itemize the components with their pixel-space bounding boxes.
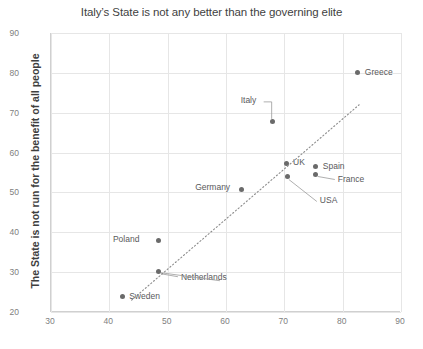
bottom-cropped-text (60, 340, 390, 348)
data-point-label: Spain (323, 161, 345, 171)
x-tick-label: 70 (268, 316, 298, 326)
y-tick-label: 20 (0, 307, 19, 317)
y-axis-title: The State is not run for the benefit of … (29, 31, 41, 311)
plot-area: GreeceItalyUKSpainFranceUSAGermanyPoland… (50, 33, 400, 312)
scatter-chart: Italy’s State is not any better than the… (0, 0, 423, 349)
gridline-vertical (109, 33, 110, 312)
y-tick-label: 40 (0, 227, 19, 237)
gridline-vertical (401, 33, 402, 312)
chart-title: Italy’s State is not any better than the… (0, 6, 423, 18)
y-tick-label: 30 (0, 267, 19, 277)
data-point[interactable] (120, 294, 125, 299)
x-tick-label: 30 (35, 316, 65, 326)
gridline-vertical (343, 33, 344, 312)
data-point[interactable] (313, 164, 318, 169)
data-point-label: Italy (241, 95, 257, 105)
y-tick-label: 90 (0, 28, 19, 38)
y-tick-label: 80 (0, 68, 19, 78)
data-point-label: Germany (195, 182, 230, 192)
x-tick-label: 60 (210, 316, 240, 326)
data-point-label: USA (320, 195, 337, 205)
data-point[interactable] (313, 172, 318, 177)
y-tick-label: 50 (0, 187, 19, 197)
x-tick-label: 80 (327, 316, 357, 326)
data-point[interactable] (156, 269, 161, 274)
gridline-horizontal (51, 312, 401, 313)
data-point-label: Greece (365, 67, 393, 77)
data-point[interactable] (239, 187, 244, 192)
data-point[interactable] (270, 119, 275, 124)
data-point[interactable] (284, 161, 289, 166)
x-tick-label: 40 (93, 316, 123, 326)
data-point[interactable] (355, 70, 360, 75)
data-point-label: UK (293, 157, 305, 167)
data-point[interactable] (156, 238, 161, 243)
data-point-label: Sweden (129, 291, 160, 301)
x-tick-label: 50 (152, 316, 182, 326)
data-point[interactable] (285, 174, 290, 179)
y-tick-label: 70 (0, 108, 19, 118)
data-point-label: Netherlands (181, 272, 227, 282)
gridline-vertical (284, 33, 285, 312)
gridline-vertical (226, 33, 227, 312)
gridline-vertical (51, 33, 52, 312)
y-tick-label: 60 (0, 148, 19, 158)
data-point-label: Poland (113, 234, 139, 244)
gridline-vertical (168, 33, 169, 312)
x-tick-label: 90 (385, 316, 415, 326)
data-point-label: France (338, 174, 364, 184)
